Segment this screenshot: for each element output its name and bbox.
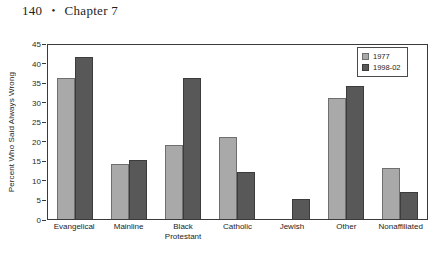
bar-1977 bbox=[57, 78, 75, 219]
bar-1998-02 bbox=[75, 57, 93, 219]
y-tick-mark bbox=[42, 161, 46, 162]
x-axis-label: Evangelical bbox=[48, 222, 100, 242]
bar-group bbox=[274, 45, 310, 219]
y-axis-title: Percent Who Said Always Wrong bbox=[5, 44, 17, 220]
y-tick-mark bbox=[42, 200, 46, 201]
bar-group bbox=[57, 45, 93, 219]
bar-1977 bbox=[382, 168, 400, 219]
y-tick-mark bbox=[42, 63, 46, 64]
legend-label: 1977 bbox=[373, 52, 390, 61]
chapter-title: Chapter 7 bbox=[65, 3, 119, 18]
bar-group bbox=[219, 45, 255, 219]
x-axis-label: Catholic bbox=[211, 222, 263, 242]
page-header: 140•Chapter 7 bbox=[22, 3, 118, 19]
bar-1977 bbox=[219, 137, 237, 219]
bar-1998-02 bbox=[292, 199, 310, 219]
page-number: 140 bbox=[22, 3, 42, 18]
x-axis-label: Jewish bbox=[266, 222, 318, 242]
y-tick-mark bbox=[42, 122, 46, 123]
legend-swatch-icon bbox=[362, 64, 369, 71]
y-axis-tick: 15 bbox=[32, 157, 46, 166]
bar-1977 bbox=[111, 164, 129, 219]
y-axis-tick: 45 bbox=[32, 40, 46, 49]
x-axis-label: Mainline bbox=[103, 222, 155, 242]
bar-1998-02 bbox=[183, 78, 201, 219]
bar-group bbox=[111, 45, 147, 219]
header-separator: • bbox=[51, 4, 55, 16]
y-axis-tick: 10 bbox=[32, 176, 46, 185]
x-axis-label: Black Protestant bbox=[157, 222, 209, 242]
y-axis-tick: 30 bbox=[32, 98, 46, 107]
bar-1977 bbox=[165, 145, 183, 219]
legend-entry-1998-02: 1998-02 bbox=[362, 62, 401, 73]
x-axis-label: Other bbox=[320, 222, 372, 242]
y-axis-tick: 25 bbox=[32, 118, 46, 127]
bar-1998-02 bbox=[400, 192, 418, 219]
y-axis-tick: 40 bbox=[32, 59, 46, 68]
bar-1998-02 bbox=[346, 86, 364, 219]
bar-1977 bbox=[328, 98, 346, 219]
legend-entry-1977: 1977 bbox=[362, 51, 401, 62]
y-axis-tick: 0 bbox=[37, 216, 46, 225]
y-tick-mark bbox=[42, 102, 46, 103]
y-axis-tick: 20 bbox=[32, 137, 46, 146]
y-tick-mark bbox=[42, 180, 46, 181]
y-tick-mark bbox=[42, 220, 46, 221]
legend-label: 1998-02 bbox=[373, 63, 401, 72]
x-axis-label: Nonaffiliated bbox=[375, 222, 427, 242]
y-axis-tick: 35 bbox=[32, 79, 46, 88]
y-axis-tick: 5 bbox=[37, 196, 46, 205]
y-tick-mark bbox=[42, 44, 46, 45]
y-tick-mark bbox=[42, 83, 46, 84]
y-tick-mark bbox=[42, 141, 46, 142]
bar-group bbox=[165, 45, 201, 219]
x-axis-labels: EvangelicalMainlineBlack ProtestantCatho… bbox=[47, 222, 428, 242]
bar-1998-02 bbox=[129, 160, 147, 219]
bar-1998-02 bbox=[237, 172, 255, 219]
legend-swatch-icon bbox=[362, 53, 369, 60]
chart-legend: 1977 1998-02 bbox=[357, 47, 408, 77]
